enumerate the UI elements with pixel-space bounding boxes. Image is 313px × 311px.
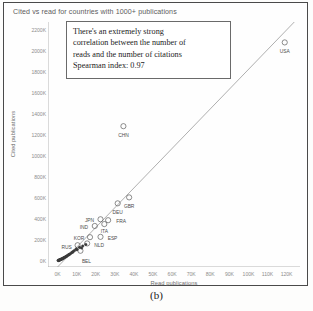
y-tick-label: 1400K (32, 111, 46, 117)
point-label-usa: USA (280, 49, 290, 54)
y-tick-label: 200K (34, 237, 46, 243)
annotation-line: There's an extremely strong (73, 26, 225, 37)
x-tick-label: 80K (206, 271, 215, 277)
x-tick-label: 50K (149, 271, 158, 277)
figure-caption: (b) (0, 289, 313, 301)
x-tick-label: 40K (129, 271, 138, 277)
x-tick-label: 100K (243, 271, 255, 277)
point-label-kor: KOR (74, 236, 84, 241)
y-tick-label: 2000K (32, 48, 46, 54)
y-axis-title: Cited publications (10, 94, 16, 174)
x-tick-label: 30K (110, 271, 119, 277)
point-label-rus: RUS (61, 245, 71, 250)
y-tick-label: 1000K (32, 153, 46, 159)
point-label-jpn: JPN (85, 218, 94, 223)
x-tick-label: 0K (54, 271, 60, 277)
y-tick-label: 1800K (32, 69, 46, 75)
x-tick-label: 110K (262, 271, 273, 277)
x-tick-label: 120K (281, 271, 293, 277)
x-axis-title: Read publications (48, 280, 300, 286)
y-tick-label: 800K (34, 174, 46, 180)
annotation-box: There's an extremely strong correlation … (66, 21, 231, 79)
point-label-bel: BEL (82, 259, 91, 264)
x-tick-label: 70K (187, 271, 196, 277)
y-tick-label: 600K (34, 195, 46, 201)
y-tick-label: 0K (40, 258, 46, 264)
point-label-ind: IND (80, 225, 88, 230)
point-label-chn: CHN (118, 133, 128, 138)
y-tick-label: 1600K (32, 90, 46, 96)
point-label-deu: DEU (113, 210, 123, 215)
chart-title: Cited vs read for countries with 1000+ p… (13, 8, 177, 16)
y-tick-label: 2200K (32, 27, 46, 33)
x-tick-label: 10K (72, 271, 81, 277)
y-axis-tick-labels: 0K200K400K600K800K1000K1200K1400K1600K18… (20, 22, 46, 267)
x-tick-label: 20K (91, 271, 100, 277)
y-tick-label: 1200K (32, 132, 46, 138)
point-label-nld: NLD (94, 243, 104, 248)
x-tick-label: 90K (225, 271, 234, 277)
point-label-fra: FRA (116, 219, 126, 224)
screenshot-root: Cited vs read for countries with 1000+ p… (0, 0, 313, 311)
annotation-line: correlation between the number of (73, 37, 225, 48)
annotation-line: reads and the number of citations (73, 49, 225, 60)
point-label-esp: ESP (108, 236, 118, 241)
x-tick-label: 60K (168, 271, 177, 277)
y-tick-label: 400K (34, 216, 46, 222)
point-label-gbr: GBR (124, 204, 134, 209)
annotation-line: Spearman index: 0.97 (73, 60, 225, 71)
figure-frame: Cited vs read for countries with 1000+ p… (3, 2, 308, 286)
point-label-ita: ITA (101, 229, 108, 234)
